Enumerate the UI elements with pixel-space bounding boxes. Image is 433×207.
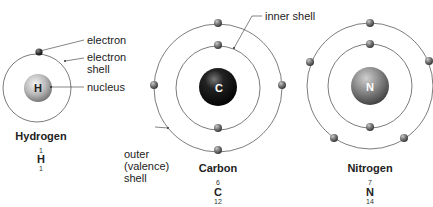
atom-name-carbon: Carbon [199,162,238,174]
mass-number-hydrogen: 1 [39,165,43,172]
nitrogen-atom: N [306,19,433,149]
label-outer-2: (valence) [124,160,169,172]
atom-name-nitrogen: Nitrogen [347,162,393,174]
label-electron-shell-1: electron [87,51,126,63]
label-inner-shell: inner shell [265,10,315,22]
mass-number-nitrogen: 14 [366,198,374,205]
label-outer-3: shell [124,172,147,184]
electron [366,40,374,48]
electron [35,48,42,55]
electron [400,134,408,142]
atomic-number-carbon: 6 [216,179,220,186]
nucleus-symbol: N [366,81,374,93]
electron [330,134,338,142]
atom-name-hydrogen: Hydrogen [15,130,67,142]
electron [150,81,158,89]
symbol-carbon: C [214,186,222,198]
electron [366,19,374,27]
symbol-hydrogen: H [37,153,45,165]
electron [214,146,222,154]
label-electron-shell-2: shell [87,63,110,75]
electron [214,19,222,27]
hydrogen-atom: H [3,40,84,122]
electron [366,123,374,131]
electron [306,58,314,66]
label-nucleus: nucleus [87,81,125,93]
carbon-atom: C [150,16,286,154]
nucleus-symbol: H [34,82,42,94]
label-electron: electron [87,34,126,46]
electron [425,57,433,65]
label-outer-1: outer [124,148,149,160]
atomic-number-nitrogen: 7 [368,179,372,186]
atom-diagram: H electron electron shell nucleus Hydrog… [0,0,433,207]
symbol-nitrogen: N [366,186,374,198]
electron [214,124,222,132]
electron [214,41,222,49]
electron [278,81,286,89]
mass-number-carbon: 12 [214,198,222,205]
nucleus-symbol: C [215,82,223,94]
